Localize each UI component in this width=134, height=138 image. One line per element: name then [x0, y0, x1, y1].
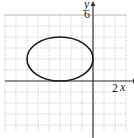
x-tick-label: 2 — [112, 81, 118, 95]
y-axis-arrow-icon — [91, 1, 96, 6]
x-axis-label: x — [119, 80, 126, 94]
y-axis-label: y — [83, 0, 90, 11]
grid-lines — [5, 15, 126, 131]
x-axis-arrow-icon — [133, 79, 134, 84]
chart-canvas: 6 2 x y — [0, 0, 134, 138]
